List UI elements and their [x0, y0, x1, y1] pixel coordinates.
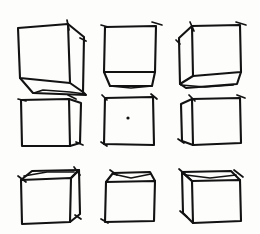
cube-front-face: [21, 178, 71, 224]
cube-top-edge-stroke: [113, 174, 151, 178]
cube-top-edge-stroke: [186, 175, 236, 178]
cube-front-face: [18, 24, 70, 83]
cube-front-face: [105, 181, 155, 222]
cube-bottom-right: [179, 169, 243, 223]
cube-left-face: [179, 26, 193, 84]
vanishing-point-dot: [126, 116, 129, 119]
cube-bottom-left: [18, 167, 81, 224]
cube-top-center: [101, 22, 162, 88]
cube-bottom-center: [101, 170, 155, 223]
cube-bottom-face: [104, 72, 155, 86]
cube-front-face: [21, 99, 70, 146]
cube-front-face: [104, 26, 156, 72]
cube-grid-drawing: [0, 0, 260, 234]
cube-corner-tick-top-right: [152, 22, 162, 25]
cube-front-face: [192, 98, 241, 145]
cube-corner-tick-top-left: [101, 25, 108, 27]
cube-front-face: [104, 97, 154, 145]
cube-middle-right: [178, 95, 245, 145]
cube-middle-center: [101, 94, 157, 146]
cube-top-left: [18, 20, 86, 95]
sketch-sheet: [0, 0, 260, 234]
cube-front-face: [192, 25, 241, 76]
cube-middle-left: [18, 95, 83, 146]
cube-top-right: [176, 22, 246, 88]
cube-front-face: [192, 180, 241, 223]
